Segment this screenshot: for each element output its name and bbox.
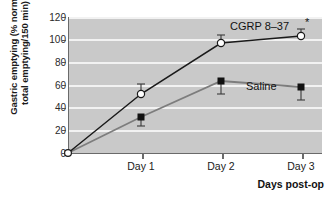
gridline-60 [69, 85, 322, 87]
gridline-120 [69, 17, 322, 19]
gridline-40 [69, 107, 322, 109]
y-tickmark-40 [62, 108, 66, 109]
series-label-saline: Saline [246, 80, 277, 92]
series-label-cgrp: CGRP 8–37 [230, 20, 289, 32]
y-tickmark-60 [62, 85, 66, 86]
gridline-80 [69, 62, 322, 64]
x-axis-title: Days post-op [257, 178, 324, 190]
y-tickmark-80 [62, 62, 66, 63]
x-tick-label-day2: Day 2 [191, 160, 251, 172]
y-tickmark-120 [62, 17, 66, 18]
y-axis-title-line1: Gastric emptying (% normal [8, 0, 19, 115]
y-axis-title: Gastric emptying (% normaltotal emptying… [8, 0, 30, 128]
significance-asterisk: * [305, 16, 309, 28]
x-tickmark-day2 [222, 154, 224, 159]
y-axis-ticks: 0 20 40 60 80 100 120 [30, 0, 66, 198]
x-tickmark-day1 [142, 154, 144, 159]
plot-area [68, 17, 322, 154]
y-axis-title-line2: total emptying/150 min) [19, 1, 30, 105]
y-tickmark-20 [62, 130, 66, 131]
gridline-20 [69, 130, 322, 132]
gridline-100 [69, 39, 322, 41]
y-tickmark-0 [62, 153, 66, 154]
x-tick-label-day1: Day 1 [111, 160, 171, 172]
chart-figure: Gastric emptying (% normaltotal emptying… [0, 0, 330, 198]
y-tickmark-100 [62, 40, 66, 41]
x-tick-label-day3: Day 3 [271, 160, 330, 172]
x-tickmark-day3 [302, 154, 304, 159]
